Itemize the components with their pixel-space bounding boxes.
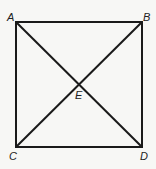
vertex-label-b: B [143,12,150,23]
intersection-label-e: E [75,90,82,101]
diagram-canvas: A B C D E [0,0,156,169]
vertex-label-a: A [7,12,14,23]
square-diagram [0,0,156,169]
vertex-label-d: D [140,151,148,162]
vertex-label-c: C [9,151,17,162]
